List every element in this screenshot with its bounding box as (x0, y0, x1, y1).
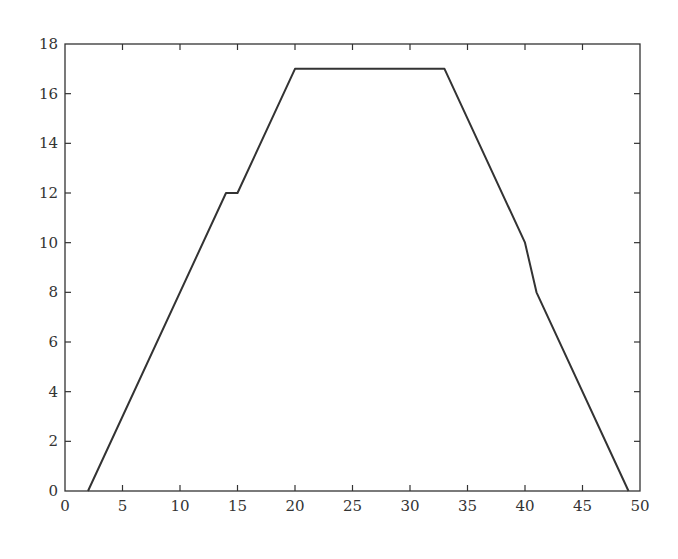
x-tick-label: 35 (458, 497, 477, 515)
axis-ticks (65, 44, 640, 491)
y-tick-label: 8 (48, 283, 58, 301)
y-tick-label: 10 (39, 234, 58, 252)
y-tick-label: 18 (39, 35, 58, 53)
y-tick-label: 14 (39, 134, 58, 152)
tick-labels: 05101520253035404550024681012141618 (39, 35, 650, 515)
x-tick-label: 20 (285, 497, 304, 515)
x-tick-label: 10 (170, 497, 189, 515)
y-tick-label: 12 (39, 184, 58, 202)
y-tick-label: 6 (48, 333, 58, 351)
x-tick-label: 15 (228, 497, 247, 515)
x-tick-label: 30 (400, 497, 419, 515)
y-tick-label: 0 (48, 482, 58, 500)
x-tick-label: 0 (60, 497, 70, 515)
y-tick-label: 16 (39, 85, 58, 103)
plot-frame (65, 44, 640, 491)
data-line (88, 69, 629, 491)
x-tick-label: 25 (343, 497, 362, 515)
x-tick-label: 40 (515, 497, 534, 515)
x-tick-label: 5 (118, 497, 128, 515)
y-tick-label: 4 (48, 383, 58, 401)
x-tick-label: 50 (630, 497, 649, 515)
y-tick-label: 2 (48, 432, 58, 450)
line-chart: 05101520253035404550024681012141618 (0, 0, 678, 559)
x-tick-label: 45 (573, 497, 592, 515)
